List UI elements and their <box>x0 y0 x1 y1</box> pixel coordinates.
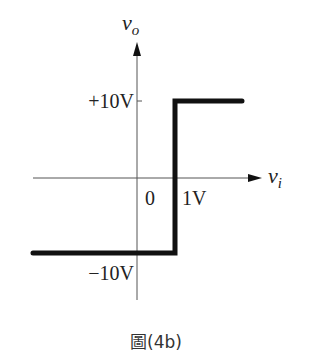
y-axis-arrow-icon <box>133 42 141 56</box>
transfer-characteristic-diagram: vo vi +10V −10V 0 1V <box>0 0 312 358</box>
y-axis-label: vo <box>122 10 140 38</box>
figure-caption: 圖(4b) <box>0 328 312 353</box>
label-threshold: 1V <box>182 187 207 209</box>
label-neg-10v: −10V <box>88 262 134 284</box>
label-pos-10v: +10V <box>88 90 134 112</box>
x-axis-arrow-icon <box>248 174 262 182</box>
x-axis-label: vi <box>268 163 282 191</box>
label-origin: 0 <box>145 187 155 209</box>
